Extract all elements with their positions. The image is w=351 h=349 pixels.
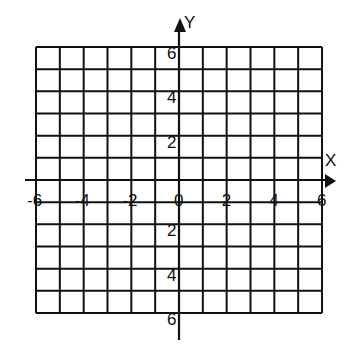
x-tick-label: 4: [269, 191, 278, 210]
coordinate-grid: X Y -6-4-20246 642246: [0, 0, 351, 349]
y-axis-label: Y: [184, 13, 195, 32]
y-tick-label: 2: [167, 133, 176, 152]
axes: [25, 28, 328, 340]
x-tick-labels: -6-4-20246: [27, 191, 326, 210]
y-tick-labels: 642246: [167, 44, 176, 329]
x-tick-label: 0: [174, 191, 183, 210]
x-tick-label: -4: [75, 191, 90, 210]
y-tick-label: 4: [167, 88, 176, 107]
y-tick-label: 2: [167, 221, 176, 240]
y-tick-label: 6: [167, 44, 176, 63]
x-axis-arrow-icon: [325, 174, 336, 188]
x-tick-label: -6: [27, 191, 42, 210]
x-tick-label: -2: [122, 191, 137, 210]
x-axis-label: X: [325, 151, 336, 170]
y-tick-label: 4: [167, 266, 176, 285]
x-tick-label: 6: [317, 191, 326, 210]
x-tick-label: 2: [222, 191, 231, 210]
y-tick-label: 6: [167, 310, 176, 329]
